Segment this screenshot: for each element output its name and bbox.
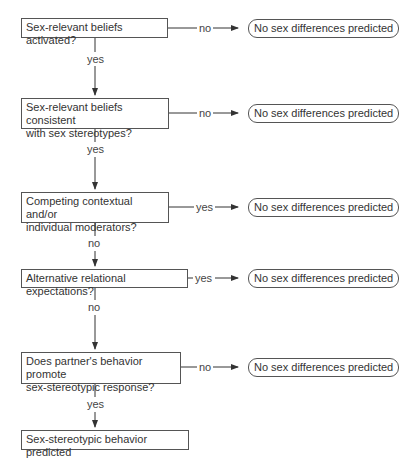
edge-label: no (88, 237, 100, 249)
outcome-no-differences: No sex differences predicted (248, 198, 399, 217)
box-line: individual moderators? (26, 221, 164, 234)
box-line: sex-stereotypic response? (26, 381, 176, 394)
edge-label: yes (87, 143, 104, 155)
edge-label: yes (195, 272, 212, 284)
terminal-box-stereotypic-behavior: Sex-stereotypic behavior predicted (21, 430, 189, 450)
decision-box-alternative-expectations: Alternative relational expectations? (21, 269, 188, 288)
edge-label: no (199, 107, 211, 119)
outcome-no-differences: No sex differences predicted (248, 358, 399, 377)
box-line: Does partner's behavior promote (26, 355, 176, 381)
connector-lines (0, 0, 406, 469)
edge-label: yes (87, 398, 104, 410)
edge-label: no (199, 361, 211, 373)
decision-box-competing-moderators: Competing contextual and/or individual m… (21, 192, 169, 223)
box-line: with sex stereotypes? (26, 127, 164, 140)
outcome-no-differences: No sex differences predicted (248, 19, 399, 38)
box-line: Sex-relevant beliefs consistent (26, 101, 164, 127)
decision-box-beliefs-activated: Sex-relevant beliefs activated? (21, 18, 168, 38)
decision-box-partner-behavior: Does partner's behavior promote sex-ster… (21, 352, 181, 384)
edge-label: no (199, 22, 211, 34)
edge-label: no (88, 301, 100, 313)
outcome-no-differences: No sex differences predicted (248, 104, 399, 123)
outcome-no-differences: No sex differences predicted (248, 269, 399, 288)
edge-label: yes (196, 201, 213, 213)
box-line: Competing contextual and/or (26, 195, 164, 221)
decision-box-beliefs-consistent: Sex-relevant beliefs consistent with sex… (21, 98, 169, 129)
edge-label: yes (87, 53, 104, 65)
